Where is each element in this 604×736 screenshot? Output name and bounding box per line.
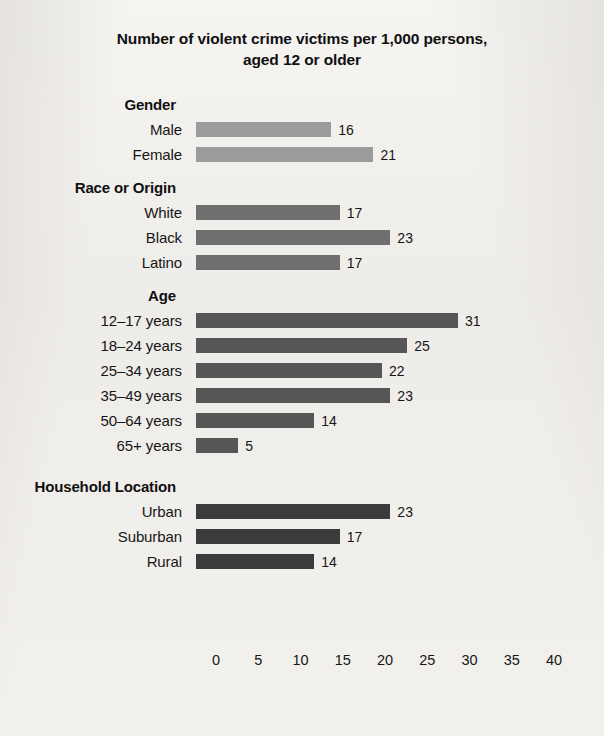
bar-row: Rural 14 <box>0 549 604 574</box>
bar-track: 17 <box>196 200 604 225</box>
bar-row: 18–24 years 25 <box>0 333 604 358</box>
bar-row: Black 23 <box>0 225 604 250</box>
bar-row: Male 16 <box>0 117 604 142</box>
bar-track: 21 <box>196 142 604 167</box>
x-axis-tick: 0 <box>212 653 220 668</box>
bar <box>196 413 314 428</box>
bar-label: Latino <box>0 255 196 270</box>
bar <box>196 147 373 162</box>
bar-label: Suburban <box>0 529 196 544</box>
x-axis-tick: 30 <box>461 653 477 668</box>
bar-label: Black <box>0 230 196 245</box>
bar-row: 35–49 years 23 <box>0 383 604 408</box>
bar-value-label: 23 <box>397 231 413 245</box>
plot-area: Gender Male 16 Female 21 Race or Origin <box>0 93 604 693</box>
bar-track: 23 <box>196 225 604 250</box>
bar-value-label: 17 <box>347 530 363 544</box>
group-gender: Gender Male 16 Female 21 <box>0 93 604 167</box>
chart-title-line-1: Number of violent crime victims per 1,00… <box>62 28 542 49</box>
group-race-or-origin: Race or Origin White 17 Black 23 Latino <box>0 176 604 275</box>
bar-label: 65+ years <box>0 438 196 453</box>
bar-row: Latino 17 <box>0 250 604 275</box>
bar-label: White <box>0 205 196 220</box>
x-axis-tick-labels: 0510152025303540 <box>196 653 604 679</box>
x-axis-tick: 5 <box>254 653 262 668</box>
bar-row: White 17 <box>0 200 604 225</box>
group-heading-age: Age <box>0 284 196 308</box>
group-spacer <box>0 167 604 176</box>
x-axis-tick: 10 <box>292 653 308 668</box>
group-household-location: Household Location Urban 23 Suburban 17 … <box>0 475 604 574</box>
bar-track: 14 <box>196 408 604 433</box>
bar-track: 25 <box>196 333 604 358</box>
bar <box>196 438 238 453</box>
bar-chart-figure: Number of violent crime victims per 1,00… <box>0 0 604 736</box>
bar-track: 23 <box>196 499 604 524</box>
bar-value-label: 23 <box>397 389 413 403</box>
bar-value-label: 23 <box>397 505 413 519</box>
bar-track: 16 <box>196 117 604 142</box>
bar <box>196 504 390 519</box>
bar-label: 18–24 years <box>0 338 196 353</box>
bar-row: 25–34 years 22 <box>0 358 604 383</box>
bar-track: 17 <box>196 250 604 275</box>
x-axis-tick: 15 <box>335 653 351 668</box>
bar-value-label: 14 <box>321 414 337 428</box>
bar <box>196 255 340 270</box>
bar-row: 65+ years 5 <box>0 433 604 458</box>
bar-value-label: 16 <box>338 123 354 137</box>
x-axis-tick: 40 <box>546 653 562 668</box>
bar-track: 5 <box>196 433 604 458</box>
chart-title: Number of violent crime victims per 1,00… <box>62 28 542 71</box>
bar-label: 25–34 years <box>0 363 196 378</box>
x-axis: 0510152025303540 <box>196 653 604 683</box>
bar-value-label: 17 <box>347 206 363 220</box>
bar-value-label: 31 <box>465 314 481 328</box>
bar-value-label: 21 <box>380 148 396 162</box>
bar-label: Male <box>0 122 196 137</box>
group-heading-household-location: Household Location <box>0 475 196 499</box>
bar-value-label: 25 <box>414 339 430 353</box>
bar-label: Rural <box>0 554 196 569</box>
group-spacer <box>0 458 604 475</box>
bar-value-label: 22 <box>389 364 405 378</box>
group-spacer <box>0 275 604 284</box>
bar <box>196 205 340 220</box>
group-heading-gender: Gender <box>0 93 196 117</box>
group-age: Age 12–17 years 31 18–24 years 25 25–34 … <box>0 284 604 458</box>
bar <box>196 230 390 245</box>
bar <box>196 529 340 544</box>
bar-row: 50–64 years 14 <box>0 408 604 433</box>
bar-track: 14 <box>196 549 604 574</box>
x-axis-tick: 20 <box>377 653 393 668</box>
bar-row: Suburban 17 <box>0 524 604 549</box>
bar-label: Female <box>0 147 196 162</box>
bar-value-label: 5 <box>245 439 253 453</box>
bar-value-label: 17 <box>347 256 363 270</box>
bar-label: 12–17 years <box>0 313 196 328</box>
bar-track: 22 <box>196 358 604 383</box>
bar-row: Female 21 <box>0 142 604 167</box>
bar-row: Urban 23 <box>0 499 604 524</box>
group-heading-race-or-origin: Race or Origin <box>0 176 196 200</box>
bar-label: Urban <box>0 504 196 519</box>
chart-title-line-2: aged 12 or older <box>62 49 542 70</box>
bar-value-label: 14 <box>321 555 337 569</box>
bar <box>196 554 314 569</box>
bar-track: 31 <box>196 308 604 333</box>
bar-track: 23 <box>196 383 604 408</box>
bar <box>196 363 382 378</box>
bar-label: 35–49 years <box>0 388 196 403</box>
x-axis-tick: 35 <box>504 653 520 668</box>
bar <box>196 313 458 328</box>
bar-track: 17 <box>196 524 604 549</box>
bar-label: 50–64 years <box>0 413 196 428</box>
bar <box>196 338 407 353</box>
bar-row: 12–17 years 31 <box>0 308 604 333</box>
bar <box>196 122 331 137</box>
x-axis-tick: 25 <box>419 653 435 668</box>
bar <box>196 388 390 403</box>
